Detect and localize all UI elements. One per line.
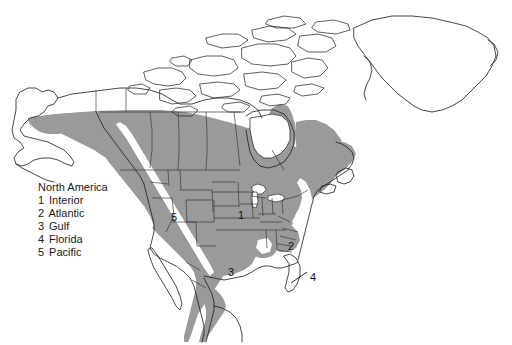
legend-item-gulf-number: 3 xyxy=(38,220,46,233)
aleutian-islands xyxy=(16,164,54,182)
shaded-range-southeast xyxy=(270,224,300,252)
map-legend: North America 1 Interior 2 Atlantic 3 Gu… xyxy=(38,181,108,259)
legend-item-florida-label: Florida xyxy=(49,233,83,245)
legend-item-gulf-label: Gulf xyxy=(49,220,69,232)
legend-item-pacific-number: 5 xyxy=(38,246,46,259)
arctic-archipelago xyxy=(128,16,350,116)
map-label-pacific: 5 xyxy=(171,211,177,223)
map-graphic xyxy=(0,0,512,345)
map-label-florida: 4 xyxy=(310,271,316,283)
map-label-gulf: 3 xyxy=(228,266,234,278)
north-america-map-figure: North America 1 Interior 2 Atlantic 3 Gu… xyxy=(0,0,512,345)
map-label-interior: 1 xyxy=(238,209,244,221)
legend-item-pacific-label: Pacific xyxy=(49,246,81,258)
legend-item-atlantic: 2 Atlantic xyxy=(38,207,108,220)
legend-item-atlantic-label: Atlantic xyxy=(48,207,84,219)
legend-item-pacific: 5 Pacific xyxy=(38,246,108,259)
greenland-east-detail xyxy=(488,40,498,66)
legend-item-interior: 1 Interior xyxy=(38,194,108,207)
greenland-outline xyxy=(354,16,496,112)
legend-item-atlantic-number: 2 xyxy=(38,207,46,220)
map-label-atlantic: 2 xyxy=(288,240,294,252)
legend-item-interior-number: 1 xyxy=(38,194,46,207)
baja-california xyxy=(148,248,182,310)
legend-item-gulf: 3 Gulf xyxy=(38,220,108,233)
legend-item-florida-number: 4 xyxy=(38,233,46,246)
legend-title: North America xyxy=(38,181,108,194)
legend-item-florida: 4 Florida xyxy=(38,233,108,246)
legend-item-interior-label: Interior xyxy=(49,194,83,206)
